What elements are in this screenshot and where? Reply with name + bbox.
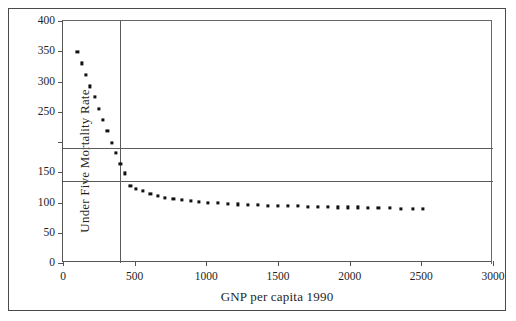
data-point — [357, 206, 360, 209]
y-tick — [58, 142, 63, 143]
y-tick-label: 100 — [38, 197, 55, 209]
data-point — [256, 203, 259, 206]
y-tick-label: 350 — [38, 46, 55, 58]
data-point — [236, 203, 239, 206]
y-tick — [58, 51, 63, 52]
data-point — [198, 200, 201, 203]
data-point — [216, 202, 219, 205]
data-point — [102, 119, 105, 122]
data-point — [114, 151, 117, 154]
y-tick — [58, 203, 63, 204]
x-tick-label: 3000 — [482, 271, 505, 283]
data-point — [156, 194, 159, 197]
data-point — [337, 206, 340, 209]
x-tick — [63, 261, 64, 266]
plot-area: 050100150250300350400 050010001500200025… — [62, 20, 492, 262]
data-point — [89, 85, 92, 88]
data-point — [421, 207, 424, 210]
data-point — [276, 204, 279, 207]
data-point — [142, 189, 145, 192]
y-tick — [58, 82, 63, 83]
data-point — [411, 207, 414, 210]
data-point — [307, 205, 310, 208]
x-tick-label: 0 — [60, 271, 66, 283]
x-tick — [206, 261, 207, 266]
y-tick — [58, 112, 63, 113]
y-tick-label: 50 — [44, 227, 56, 239]
y-tick — [58, 233, 63, 234]
vertical-reference-line — [120, 21, 121, 263]
data-point — [296, 205, 299, 208]
data-point — [129, 184, 132, 187]
x-tick-label: 2500 — [410, 271, 433, 283]
data-point — [317, 205, 320, 208]
data-point — [149, 192, 152, 195]
horizontal-reference-line — [63, 148, 493, 149]
data-point — [163, 196, 166, 199]
x-tick — [421, 261, 422, 266]
data-point — [110, 141, 113, 144]
data-point — [84, 73, 87, 76]
data-point — [266, 204, 269, 207]
data-point — [246, 203, 249, 206]
data-point — [80, 62, 83, 65]
y-tick — [58, 172, 63, 173]
data-point — [377, 206, 380, 209]
x-tick — [493, 261, 494, 266]
data-point — [189, 199, 192, 202]
data-point — [135, 187, 138, 190]
data-point — [286, 205, 289, 208]
y-tick-label: 400 — [38, 15, 55, 27]
y-tick-label: 0 — [49, 257, 55, 269]
data-point — [76, 50, 79, 53]
data-point — [226, 202, 229, 205]
data-point — [367, 206, 370, 209]
x-tick-label: 1500 — [267, 271, 290, 283]
x-tick — [278, 261, 279, 266]
data-point — [180, 198, 183, 201]
data-point — [388, 206, 391, 209]
data-point — [93, 96, 96, 99]
x-tick-label: 1000 — [195, 271, 218, 283]
plot-right-edge — [491, 20, 492, 264]
data-point — [97, 107, 100, 110]
data-point — [400, 207, 403, 210]
data-point — [327, 205, 330, 208]
y-tick-label: 150 — [38, 167, 55, 179]
y-tick-label: 300 — [38, 76, 55, 88]
x-axis-title: GNP per capita 1990 — [62, 289, 492, 305]
x-tick — [135, 261, 136, 266]
data-point — [106, 130, 109, 133]
figure-container: Under Five Mortality Rate GNP per capita… — [0, 0, 516, 321]
data-point — [172, 197, 175, 200]
data-point — [347, 206, 350, 209]
y-tick-label: 250 — [38, 106, 55, 118]
y-tick — [58, 21, 63, 22]
data-point — [119, 162, 122, 165]
data-point — [206, 201, 209, 204]
x-tick — [350, 261, 351, 266]
horizontal-reference-line — [63, 181, 493, 182]
x-tick-label: 500 — [126, 271, 143, 283]
x-tick-label: 2000 — [338, 271, 361, 283]
data-point — [123, 172, 126, 175]
